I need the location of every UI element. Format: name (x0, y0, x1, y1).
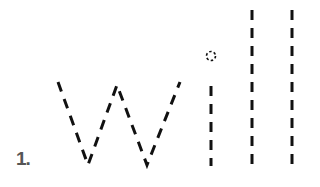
tracing-word (0, 0, 320, 187)
letter-i-dot (207, 52, 216, 61)
letter-w (58, 82, 180, 165)
